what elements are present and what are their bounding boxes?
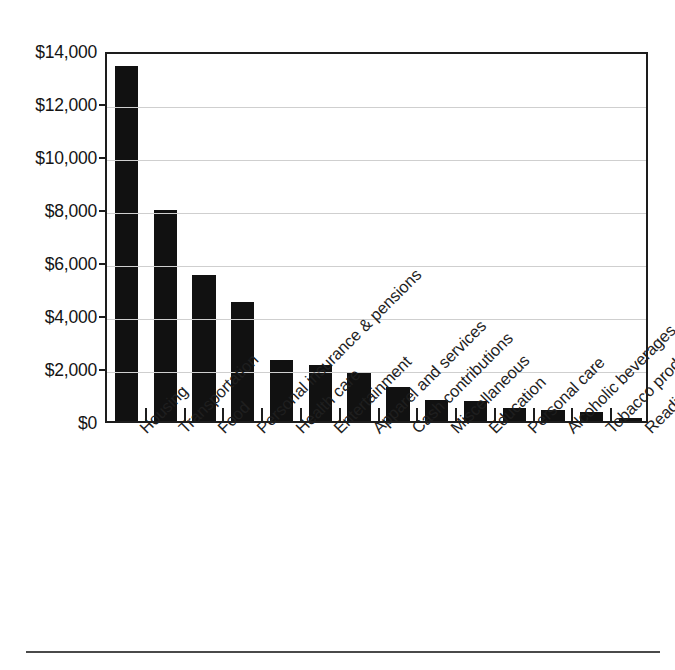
- bar-chart-figure: $0$2,000$4,000$6,000$8,000$10,000$12,000…: [0, 0, 675, 670]
- x-axis-tick-label: Education: [485, 424, 498, 437]
- x-axis-tick-label: Miscellaneous: [447, 424, 460, 437]
- x-axis-tick-label: Cash contributions: [408, 424, 421, 437]
- y-axis-tick-mark: [99, 210, 107, 212]
- x-axis: HousingTransportationFoodPersonal insura…: [0, 424, 675, 634]
- y-axis-tick-mark: [99, 157, 107, 159]
- y-axis-tick-mark: [99, 369, 107, 371]
- x-axis-tick-label: Housing: [136, 424, 149, 437]
- x-axis-tick-label: Health care: [292, 424, 305, 437]
- gridline: [107, 107, 646, 108]
- bottom-divider: [26, 651, 660, 653]
- x-axis-tick-label: Personal insurance & pensions: [253, 424, 266, 437]
- bars-layer: [107, 54, 646, 421]
- plot-area: [105, 52, 648, 423]
- gridline: [107, 266, 646, 267]
- gridline: [107, 213, 646, 214]
- x-axis-tick-label: Alcoholic beverages: [563, 424, 576, 437]
- gridline: [107, 372, 646, 373]
- y-axis-tick-label: $6,000: [45, 254, 97, 275]
- y-axis-tick-label: $10,000: [35, 148, 97, 169]
- y-axis-tick-mark: [99, 104, 107, 106]
- y-axis-tick-label: $12,000: [35, 95, 97, 116]
- y-axis-tick-label: $2,000: [45, 360, 97, 381]
- x-axis-tick-label: Tobacco products: [602, 424, 615, 437]
- bar: [115, 66, 138, 421]
- y-axis-tick-mark: [99, 263, 107, 265]
- y-axis-tick-label: $8,000: [45, 201, 97, 222]
- y-axis-tick-label: $14,000: [35, 42, 97, 63]
- y-axis-tick-label: $4,000: [45, 307, 97, 328]
- y-axis-tick-mark: [99, 316, 107, 318]
- x-axis-tick-label: Reading: [641, 424, 654, 437]
- x-axis-tick-label: Transportation: [175, 424, 188, 437]
- x-axis-tick-label: Apparel and services: [369, 424, 382, 437]
- x-axis-tick-label: Personal care: [524, 424, 537, 437]
- y-axis: $0$2,000$4,000$6,000$8,000$10,000$12,000…: [0, 52, 97, 423]
- gridline: [107, 160, 646, 161]
- x-axis-tick-label: Food: [214, 424, 227, 437]
- x-axis-tick-label: Entertainment: [330, 424, 343, 437]
